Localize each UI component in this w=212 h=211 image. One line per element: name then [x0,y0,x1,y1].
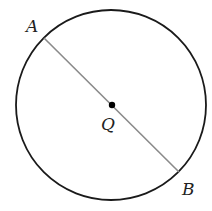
label-a: A [24,16,38,36]
label-b: B [181,179,195,199]
label-q: Q [101,114,115,134]
circle-diagram: A Q B [0,0,212,211]
center-point-q [109,102,115,108]
